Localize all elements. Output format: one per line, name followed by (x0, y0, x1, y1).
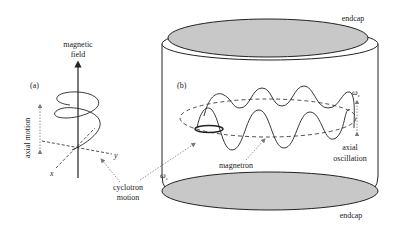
panel-b-label: (b) (177, 81, 187, 90)
omega-z-label: ωz (352, 88, 360, 98)
magnetron-pointer (246, 140, 264, 160)
magnetron-label: magnetron (219, 161, 253, 170)
axial-wave-lower (197, 108, 350, 150)
cyclotron-orbit (195, 126, 223, 133)
panel-a: magnetic field (a) y x axial motion cycl… (23, 40, 194, 202)
x-label: x (49, 169, 54, 178)
axial-motion-label: axial motion (23, 118, 32, 158)
magnetic-field-label: magnetic (63, 40, 93, 49)
panel-b: endcap (b) ωz axial oscillation magnetro… (160, 14, 378, 220)
panel-a-label: (a) (30, 81, 39, 90)
endcap-top-label: endcap (342, 14, 365, 23)
endcap-bottom-label: endcap (340, 211, 363, 220)
penning-trap-diagram: magnetic field (a) y x axial motion cycl… (0, 0, 398, 231)
omega-c-label: ωc (160, 171, 169, 181)
axial-wave-upper (204, 86, 354, 128)
axial-oscillation-label: axial (342, 143, 358, 152)
endcap-bottom (162, 172, 378, 210)
magnetic-field-label-2: field (71, 50, 86, 59)
axial-oscillation-label-2: oscillation (333, 154, 366, 163)
cyclotron-label: cyclotron (113, 183, 143, 192)
endcap-top (168, 19, 368, 57)
cyclotron-pointer-a (102, 160, 120, 182)
magnetron-orbit (180, 99, 356, 137)
cyclotron-label-2: motion (117, 193, 140, 202)
y-label: y (113, 151, 118, 160)
helix-path (55, 92, 101, 150)
cyclotron-pointer-b (140, 144, 194, 180)
